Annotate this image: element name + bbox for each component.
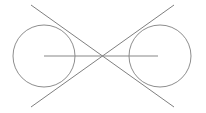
geometry-figure-svg [0, 0, 206, 113]
geometry-figure-canvas [0, 0, 206, 113]
